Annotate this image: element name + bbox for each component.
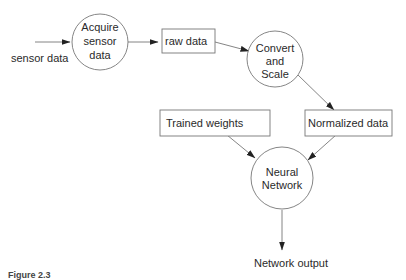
svg-text:sensor: sensor — [83, 35, 116, 47]
node-convert-and-scale: Convert and Scale — [247, 31, 303, 87]
node-trained-weights: Trained weights — [160, 110, 270, 136]
svg-text:data: data — [89, 49, 111, 61]
svg-text:Normalized data: Normalized data — [308, 117, 389, 129]
node-raw-data: raw data — [162, 29, 215, 53]
edge-weights-to-nn — [227, 135, 255, 158]
edge-convert-to-normalized — [298, 75, 334, 110]
svg-text:Neural: Neural — [266, 166, 298, 178]
svg-text:Acquire: Acquire — [81, 21, 118, 33]
edge-normalized-to-nn — [308, 135, 336, 160]
node-acquire-sensor-data: Acquire sensor data — [72, 14, 128, 70]
svg-text:Convert: Convert — [256, 42, 295, 54]
svg-text:raw data: raw data — [165, 35, 208, 47]
output-label: Network output — [254, 257, 328, 269]
figure-caption: Figure 2.3 — [8, 270, 51, 280]
svg-text:and: and — [266, 55, 284, 67]
node-neural-network: Neural Network — [251, 147, 313, 209]
svg-text:Scale: Scale — [261, 68, 289, 80]
svg-text:Network: Network — [262, 179, 303, 191]
svg-text:Trained weights: Trained weights — [166, 117, 244, 129]
input-label: sensor data — [11, 52, 69, 64]
node-normalized-data: Normalized data — [305, 110, 392, 136]
edge-raw-to-convert — [215, 42, 249, 51]
